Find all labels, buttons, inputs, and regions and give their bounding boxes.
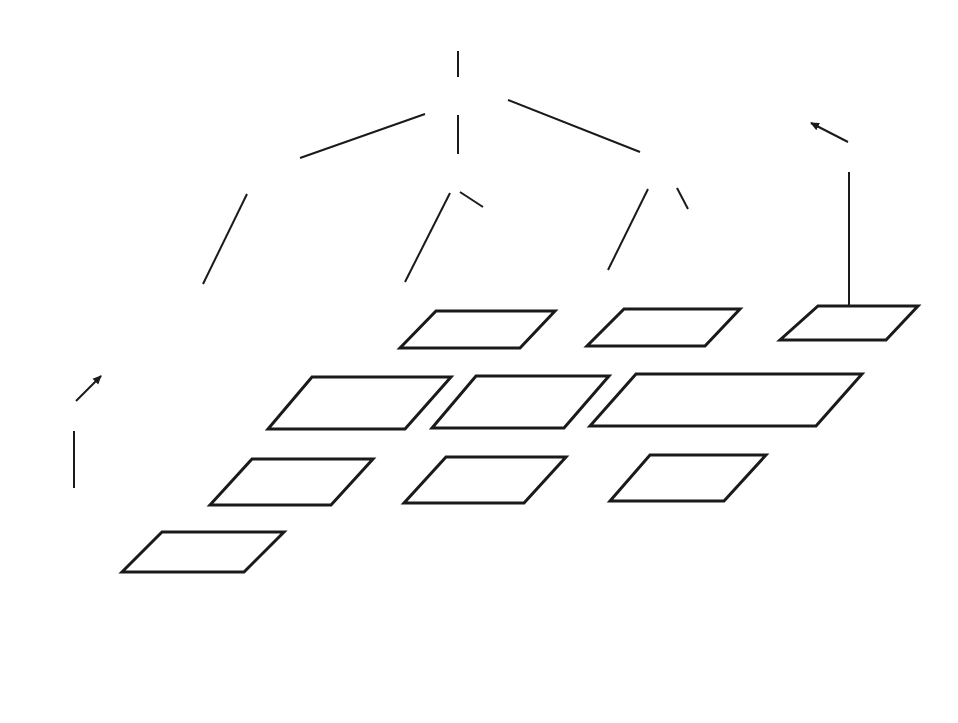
edge-supC-to-day-supervisor [608, 189, 648, 270]
edge-supB-to-day-supervisor [405, 193, 450, 282]
plant-c [590, 374, 862, 426]
shift-trade-teams-b [404, 457, 566, 503]
edge-supA-to-day-supervisor [203, 194, 247, 284]
day-trade-teams-a [122, 532, 284, 572]
shift-trade-teams-a [210, 459, 373, 505]
edge-manager-to-supC [508, 100, 640, 152]
plant-a [268, 377, 451, 429]
plant-b [432, 376, 609, 428]
operators-shifts-b [400, 311, 555, 348]
operators-shifts-c [587, 309, 740, 346]
arrow-to-production [811, 123, 848, 142]
arrow-to-maintenance-manager [76, 376, 101, 401]
production-shift-trade-teams [780, 306, 918, 340]
edge-supC-to-shift-supervisor [677, 188, 688, 209]
edge-manager-to-supA [300, 114, 425, 158]
maintenance-org-diagram [0, 0, 958, 723]
edge-supB-to-shift-supervisor [460, 192, 483, 207]
shift-trade-teams-c [610, 455, 766, 501]
